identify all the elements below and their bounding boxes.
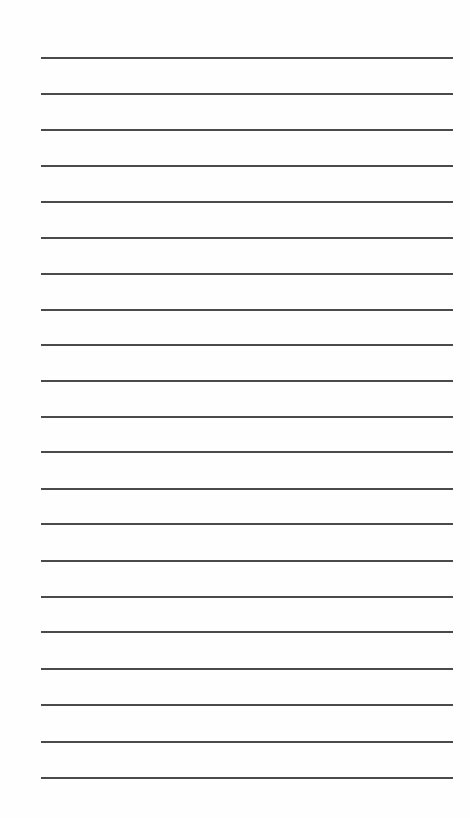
ruled-line: [41, 523, 453, 525]
ruled-line: [41, 57, 453, 59]
ruled-line: [41, 741, 453, 743]
ruled-line: [41, 560, 453, 562]
ruled-line: [41, 451, 453, 453]
ruled-line: [41, 777, 453, 779]
ruled-line: [41, 273, 453, 275]
ruled-line: [41, 668, 453, 670]
ruled-line: [41, 309, 453, 311]
ruled-line: [41, 201, 453, 203]
ruled-line: [41, 129, 453, 131]
ruled-line: [41, 631, 453, 633]
ruled-line: [41, 704, 453, 706]
ruled-line: [41, 596, 453, 598]
ruled-line: [41, 93, 453, 95]
ruled-line: [41, 416, 453, 418]
ruled-line: [41, 380, 453, 382]
lined-paper: [0, 0, 470, 818]
ruled-line: [41, 344, 453, 346]
ruled-line: [41, 488, 453, 490]
ruled-line: [41, 165, 453, 167]
ruled-line: [41, 237, 453, 239]
